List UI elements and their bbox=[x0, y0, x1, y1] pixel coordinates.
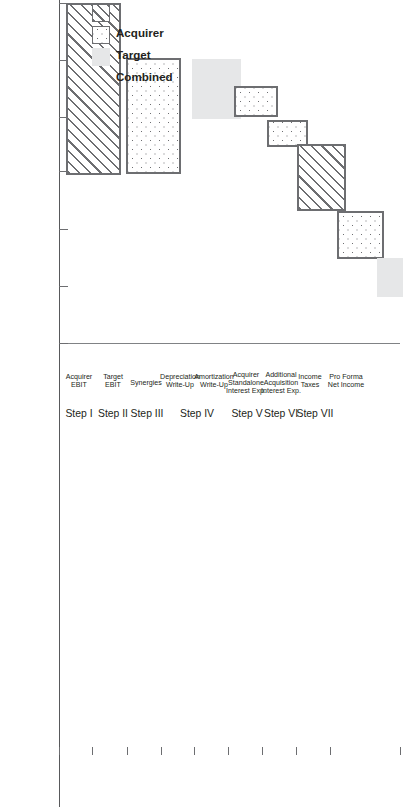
category-tick bbox=[296, 747, 297, 755]
category-tick bbox=[92, 747, 93, 755]
value-axis-line bbox=[59, 343, 400, 344]
category-tick bbox=[228, 747, 229, 755]
category-tick bbox=[127, 747, 128, 755]
bar-depreciation-write-up bbox=[234, 86, 278, 117]
value-axis-tick bbox=[59, 343, 68, 344]
legend-label-combined: Combined bbox=[116, 70, 173, 83]
category-tick bbox=[59, 747, 60, 755]
legend-swatch-combined bbox=[92, 48, 110, 66]
category-tick bbox=[400, 747, 401, 755]
step-label-7: Step VII bbox=[285, 408, 345, 422]
bar-amortization-write-up bbox=[267, 120, 308, 147]
category-axis-line bbox=[59, 0, 60, 807]
category-tick bbox=[330, 747, 331, 755]
category-tick bbox=[161, 747, 162, 755]
bar-income-taxes bbox=[377, 258, 403, 297]
category-tick bbox=[194, 747, 195, 755]
chart-canvas: ÷ Acquirer Fully Diluted Shares Outstand… bbox=[0, 0, 403, 807]
plot-area: ÷ Acquirer Fully Diluted Shares Outstand… bbox=[0, 0, 403, 807]
cat-label-pro-forma-net-income: Pro Forma Net Income bbox=[316, 374, 376, 398]
legend-swatch-target bbox=[92, 26, 110, 44]
bar-additional-acquisition-interest bbox=[337, 211, 384, 259]
value-axis-tick bbox=[59, 229, 68, 230]
value-axis-tick bbox=[59, 286, 68, 287]
bar-acquirer-standalone-interest bbox=[297, 144, 346, 211]
chart-legend: Acquirer Target Combined bbox=[92, 4, 212, 66]
legend-label-target: Target bbox=[116, 48, 151, 61]
legend-swatch-acquirer bbox=[92, 4, 110, 22]
category-tick bbox=[262, 747, 263, 755]
legend-label-acquirer: Acquirer bbox=[116, 26, 164, 39]
